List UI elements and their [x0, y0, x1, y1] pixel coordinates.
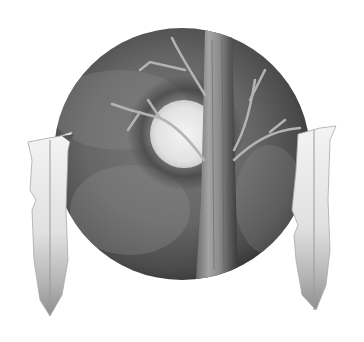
shield-illustration	[0, 0, 364, 342]
left-feather	[28, 132, 74, 316]
right-feather	[292, 126, 336, 310]
